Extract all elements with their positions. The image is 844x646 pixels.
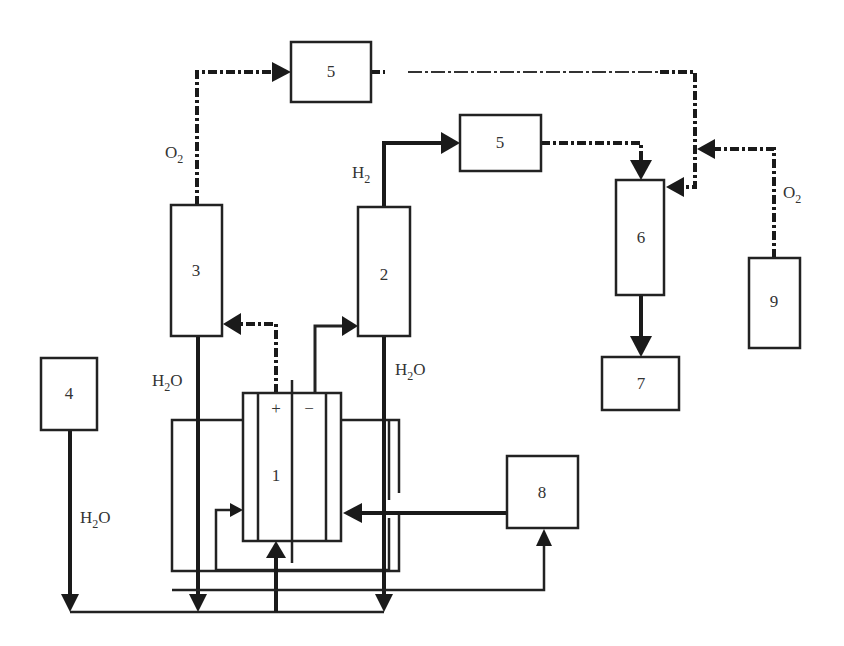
negative-terminal: −: [304, 399, 314, 418]
box-8: 8: [507, 456, 578, 528]
box-2: 2: [358, 207, 410, 336]
box-3: 3: [171, 205, 222, 336]
label-h2: H2: [352, 163, 370, 186]
svg-text:8: 8: [538, 483, 547, 502]
line-5-to-6: [541, 143, 641, 162]
box-9: 9: [749, 258, 800, 348]
svg-text:1: 1: [272, 466, 281, 485]
box-4: 4: [41, 358, 97, 430]
svg-text:5: 5: [496, 133, 505, 152]
h2-line-2-to-5: [384, 143, 444, 207]
label-o2-right: O2: [783, 183, 801, 206]
line-to-8: [172, 545, 544, 590]
label-h2o-bottom: H2O: [80, 508, 111, 531]
svg-text:4: 4: [65, 384, 74, 403]
o2-line-5-to-6: [660, 72, 695, 187]
label-h2o-left: H2O: [152, 371, 183, 394]
arrow-left-icon: [223, 313, 241, 335]
arrow-down-icon: [375, 594, 393, 612]
box-5-middle: 5: [460, 115, 541, 171]
arrow-up-icon: [266, 541, 286, 558]
arrow-left-icon: [697, 139, 715, 159]
box-6: 6: [616, 180, 664, 295]
o2-line-3-to-5: [197, 72, 275, 205]
svg-text:7: 7: [637, 374, 646, 393]
svg-text:5: 5: [327, 62, 336, 81]
label-h2o-right: H2O: [395, 360, 426, 383]
box-7: 7: [602, 357, 679, 410]
arrow-down-icon: [630, 336, 652, 357]
arrow-up-icon: [536, 529, 552, 546]
line-1-to-2: [315, 326, 344, 393]
arrow-left-icon: [666, 177, 684, 197]
process-diagram: 5 5 3 2 6 7 9 4 8 + − 1 O2: [0, 0, 844, 646]
o2-line-9-to-6: [715, 149, 774, 258]
gap: [395, 493, 405, 511]
label-o2-left: O2: [165, 143, 183, 166]
svg-text:6: 6: [637, 228, 646, 247]
svg-text:3: 3: [192, 261, 201, 280]
arrow-right-icon: [272, 62, 291, 82]
arrow-right-icon: [230, 503, 243, 517]
arrow-left-icon: [343, 503, 362, 523]
svg-text:9: 9: [770, 292, 779, 311]
arrow-down-icon: [630, 160, 652, 180]
arrow-right-icon: [342, 316, 358, 336]
arrow-down-icon: [189, 594, 207, 612]
arrow-down-icon: [61, 594, 79, 612]
box-5-top: 5: [291, 42, 371, 102]
electrolyser-1: + − 1: [243, 380, 341, 563]
line-1-to-3: [240, 324, 276, 393]
arrow-right-icon: [441, 132, 460, 154]
svg-text:2: 2: [380, 265, 389, 284]
positive-terminal: +: [271, 399, 281, 418]
